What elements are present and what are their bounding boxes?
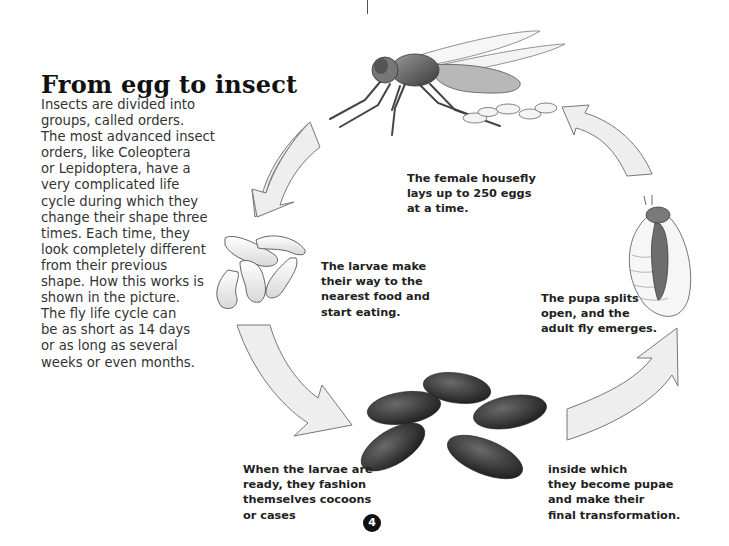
caption-line: inside which [548, 462, 680, 477]
caption-line: lays up to 250 eggs [407, 186, 536, 201]
intro-line: cycle during which they [41, 194, 206, 210]
intro-line: The most advanced insect [41, 129, 206, 145]
caption-line: The larvae make [321, 259, 430, 274]
caption-line: The pupa splits [541, 291, 657, 306]
caption-line: final transformation. [548, 508, 680, 523]
caption-emerging-fly: The pupa splits open, and the adult fly … [541, 291, 657, 337]
intro-line: very complicated life [41, 177, 206, 193]
page: From egg to insect Insects are divided i… [0, 0, 729, 546]
intro-line: or as long as several [41, 338, 206, 354]
intro-line: or Lepidoptera, have a [41, 161, 206, 177]
arrow-icon-cocoons-to-pupa [567, 328, 678, 440]
intro-line: Insects are divided into [41, 97, 206, 113]
intro-line: shape. How this works is [41, 274, 206, 290]
caption-line: When the larvae are [243, 462, 373, 477]
caption-line: they become pupae [548, 477, 680, 492]
intro-line: look completely different [41, 242, 206, 258]
intro-line: groups, called orders. [41, 113, 206, 129]
page-number-badge: 4 [363, 514, 381, 532]
caption-line: adult fly emerges. [541, 321, 657, 336]
intro-line: shown in the picture. [41, 290, 206, 306]
eggs-illustration [463, 103, 557, 123]
caption-line: and make their [548, 492, 680, 507]
caption-line: or cases [243, 508, 373, 523]
caption-cocoons: When the larvae are ready, they fashion … [243, 462, 373, 523]
intro-paragraph: Insects are divided into groups, called … [41, 97, 206, 371]
intro-line: from their previous [41, 258, 206, 274]
intro-line: orders, like Coleoptera [41, 145, 206, 161]
arrow-icon-fly-to-larvae [252, 122, 320, 218]
caption-line: open, and the [541, 306, 657, 321]
cocoons-illustration [353, 368, 549, 487]
caption-pupae: inside which they become pupae and make … [548, 462, 680, 523]
intro-line: be as short as 14 days [41, 322, 206, 338]
intro-line: times. Each time, they [41, 226, 206, 242]
page-title: From egg to insect [41, 70, 297, 99]
caption-line: themselves cocoons [243, 492, 373, 507]
intro-line: The fly life cycle can [41, 306, 206, 322]
intro-line: change their shape three [41, 210, 206, 226]
larvae-illustration [217, 236, 305, 309]
caption-line: start eating. [321, 305, 430, 320]
caption-line: their way to the [321, 274, 430, 289]
caption-adult-fly: The female housefly lays up to 250 eggs … [407, 171, 536, 217]
caption-larvae: The larvae make their way to the nearest… [321, 259, 430, 320]
arrow-icon-pupa-to-fly [562, 105, 652, 176]
arrow-icon-larvae-to-cocoons [237, 325, 352, 436]
caption-line: nearest food and [321, 289, 430, 304]
caption-line: ready, they fashion [243, 477, 373, 492]
intro-line: weeks or even months. [41, 355, 206, 371]
caption-line: at a time. [407, 201, 536, 216]
caption-line: The female housefly [407, 171, 536, 186]
adult-fly-illustration [330, 31, 565, 135]
